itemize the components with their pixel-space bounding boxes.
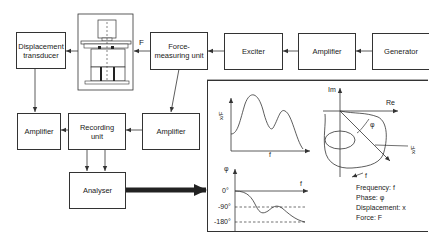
legend-frequency: Frequency: f: [356, 183, 406, 193]
phase-tick-90: -90°: [218, 203, 231, 210]
analyser-block: Analyser: [69, 172, 126, 209]
exciter-label: Exciter: [242, 47, 265, 56]
amplifier-left-label: Amplifier: [24, 127, 53, 136]
recording-unit-block: Recording unit: [68, 113, 126, 150]
polar-direction-label: f: [365, 172, 367, 179]
polar-vector-label: x/F: [410, 146, 416, 154]
phase-tick-0: 0°: [222, 187, 229, 194]
displacement-transducer-label: Displacement transducer: [18, 42, 63, 60]
phase-ylabel: φ: [224, 165, 229, 172]
amplifier-right-block: Amplifier: [142, 113, 200, 150]
analyser-label: Analyser: [83, 186, 112, 195]
amplifier-left-block: Amplifier: [17, 113, 61, 150]
recording-unit-label: Recording unit: [80, 123, 114, 141]
phase-tick-180: -180°: [214, 218, 231, 225]
legend: Frequency: f Phase: φ Displacement: x Fo…: [356, 183, 406, 223]
amplifier-top-label: Amplifier: [312, 47, 341, 56]
magnitude-xlabel: f: [269, 151, 271, 158]
generator-label: Generator: [384, 47, 418, 56]
force-measuring-unit-block: Force- measuring unit: [150, 32, 208, 70]
legend-displacement: Displacement: x: [356, 203, 406, 213]
phase-xlabel: f: [300, 180, 302, 187]
polar-re-label: Re: [386, 99, 395, 106]
polar-angle-label: φ: [370, 121, 375, 128]
exciter-block: Exciter: [224, 33, 283, 70]
generator-block: Generator: [372, 33, 429, 70]
test-rig-drawing: [78, 14, 133, 90]
force-measuring-unit-label: Force- measuring unit: [154, 42, 203, 60]
force-label: F: [139, 38, 144, 47]
legend-phase: Phase: φ: [356, 193, 406, 203]
magnitude-ylabel: x/F: [218, 112, 224, 120]
force-to-amplifier-arrow: [171, 69, 179, 112]
amplifier-top-block: Amplifier: [298, 33, 356, 70]
displacement-transducer-block: Displacement transducer: [16, 32, 66, 69]
polar-im-label: Im: [328, 86, 336, 93]
amplifier-right-label: Amplifier: [156, 127, 185, 136]
legend-force: Force: F: [356, 213, 406, 223]
